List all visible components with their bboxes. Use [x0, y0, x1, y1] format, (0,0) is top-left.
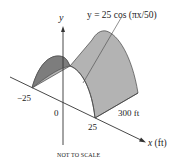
y-axis-label: y — [58, 12, 64, 23]
equation-label: y = 25 cos (πx/50) — [87, 10, 157, 21]
not-to-scale-note: NOT TO SCALE — [57, 152, 100, 158]
x-axis-label-unit: (ft) — [152, 138, 167, 149]
tick-label-25: 25 — [88, 122, 98, 132]
tick-label-zero: 0 — [54, 108, 59, 118]
y-axis-arrow-icon — [61, 26, 65, 32]
x-axis-label: x (ft) — [147, 138, 167, 149]
arch-diagram: y y = 25 cos (πx/50) −25 0 25 300 ft x (… — [0, 0, 179, 167]
x-axis-arrow-icon — [139, 138, 146, 143]
arch-inner-surface — [32, 56, 70, 88]
tick-label-neg-25: −25 — [17, 93, 32, 103]
length-label: 300 ft — [118, 108, 140, 118]
